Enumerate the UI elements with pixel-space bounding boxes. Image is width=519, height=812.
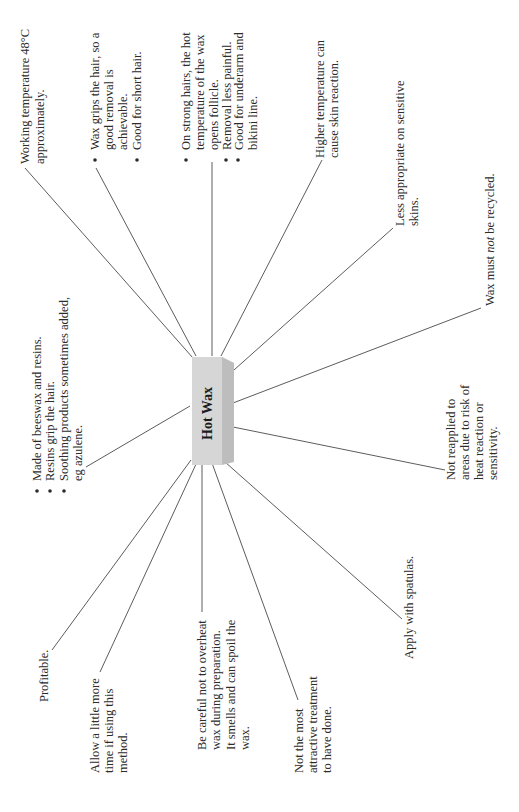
node-text: wax. xyxy=(238,726,252,750)
node-text: Good for underarm and xyxy=(232,32,246,150)
bullet-icon xyxy=(62,489,66,493)
bullet-icon xyxy=(135,158,139,162)
node-text: Be careful not to overheat xyxy=(195,620,209,750)
node-be-careful: Be careful not to overheat wax during pr… xyxy=(195,619,252,750)
node-text: It smells and can spoil the xyxy=(224,619,238,750)
node-text: Soothing products sometimes added, xyxy=(57,297,71,481)
connector-not-reapplied xyxy=(233,427,445,470)
node-text: On strong hairs, the hot xyxy=(179,32,193,150)
center-node-hot-wax: Hot Wax xyxy=(192,357,234,465)
node-working-temp: Working temperature 48°C approximately. xyxy=(18,29,47,164)
node-text: opens follicle. xyxy=(207,79,221,150)
node-text: skins. xyxy=(407,197,421,226)
node-strong-hairs: On strong hairs, the hot temperature of … xyxy=(179,32,260,162)
diagram-canvas: Hot Wax Working temperature 48°C approxi… xyxy=(0,0,519,812)
node-text: attractive treatment xyxy=(306,676,320,773)
connector-profitable xyxy=(52,460,191,650)
bullet-icon xyxy=(35,489,39,493)
node-text: approximately. xyxy=(33,89,47,164)
connector-wax-grips xyxy=(96,168,196,356)
node-not-recycled: Wax must not be recycled. xyxy=(483,173,497,306)
node-spatulas: Apply with spatulas. xyxy=(402,556,416,659)
node-text: method. xyxy=(116,732,130,773)
connector-not-recycled xyxy=(233,308,481,403)
hot-wax-mind-map: Hot Wax Working temperature 48°C approxi… xyxy=(0,0,519,812)
connector-higher-temp xyxy=(221,160,322,356)
bullet-icon xyxy=(93,158,97,162)
connector-made-of xyxy=(86,406,190,467)
node-made-of: Made of beeswax and resins. Resins grip … xyxy=(30,297,85,493)
node-text: bikini line. xyxy=(246,96,260,150)
node-text: good removal is xyxy=(102,69,116,150)
node-text: Allow a little more xyxy=(88,678,102,773)
node-text: Not reapplied to xyxy=(444,399,458,480)
node-text: Profitable. xyxy=(37,650,51,702)
node-text: Wax grips the hair, so a xyxy=(88,32,102,150)
connector-working-temp xyxy=(25,168,193,358)
node-higher-temp: Higher temperature can cause skin reacti… xyxy=(313,39,341,158)
node-text: Resins grip the hair. xyxy=(43,381,57,481)
node-text: Less appropriate on sensitive xyxy=(393,80,407,226)
node-text: to have done. xyxy=(320,706,334,773)
node-text: sensitivity. xyxy=(486,426,500,480)
node-text: areas due to risk of xyxy=(458,384,472,480)
connector-sensitive xyxy=(234,228,393,370)
node-text: heat reaction or xyxy=(472,401,486,480)
node-text: Not the most xyxy=(292,708,306,773)
node-text: wax during preparation. xyxy=(209,630,223,750)
node-text: Working temperature 48°C xyxy=(18,29,32,164)
bullet-icon xyxy=(236,158,240,162)
node-sensitive: Less appropriate on sensitive skins. xyxy=(393,80,421,226)
node-text: temperature of the wax xyxy=(193,34,207,150)
bullet-icon xyxy=(184,158,188,162)
bullet-icon xyxy=(48,489,52,493)
node-text: Apply with spatulas. xyxy=(402,556,416,659)
node-not-reapplied: Not reapplied to areas due to risk of he… xyxy=(444,384,500,480)
node-allow-time: Allow a little more time if using this m… xyxy=(88,678,130,773)
node-wax-grips: Wax grips the hair, so a good removal is… xyxy=(88,32,144,161)
node-text: Made of beeswax and resins. xyxy=(30,336,44,481)
node-text: time if using this xyxy=(102,688,116,773)
node-text: Good for short hair. xyxy=(130,51,144,150)
node-text: Wax must not be recycled. xyxy=(483,173,497,306)
node-text: eg azulene. xyxy=(71,425,85,481)
node-text: cause skin reaction. xyxy=(327,60,341,158)
connector-allow-time xyxy=(100,462,197,672)
node-text: achievable. xyxy=(116,93,130,150)
connector-spatulas xyxy=(225,462,402,619)
node-profitable: Profitable. xyxy=(37,650,51,702)
center-label: Hot Wax xyxy=(200,387,215,440)
bullet-icon xyxy=(224,158,228,162)
box-side-face xyxy=(222,357,234,465)
node-not-attractive: Not the most attractive treatment to hav… xyxy=(292,676,334,773)
node-text: Higher temperature can xyxy=(313,39,327,158)
